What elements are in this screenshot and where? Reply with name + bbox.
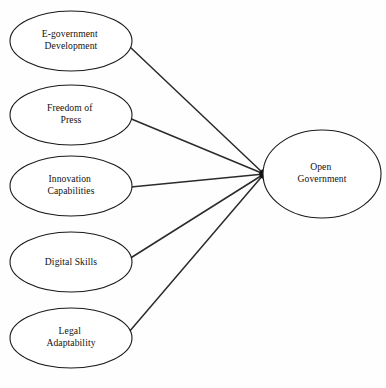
node-e-government-development[interactable]: E-government Development [10,11,132,71]
edge-group [129,47,264,332]
node-label-e-government-development: E-government Development [42,29,101,52]
node-label-digital-skills: Digital Skills [45,256,97,267]
diagram-root: E-government Development Freedom of Pres… [0,0,386,388]
label-line-1: Open [310,162,331,173]
label-line-2: Capabilities [47,185,94,196]
label-line-1: Innovation [48,174,91,185]
label-line-2: Government [298,173,347,184]
node-legal-adaptability[interactable]: Legal Adaptability [10,308,132,368]
edge-innovation-capabilities-to-open-government [131,174,264,187]
diagram-canvas: E-government Development Freedom of Pres… [0,0,386,388]
node-innovation-capabilities[interactable]: Innovation Capabilities [10,156,132,216]
label-line-1: E-government [42,29,98,40]
node-freedom-of-press[interactable]: Freedom of Press [10,85,132,145]
label-line-2: Adaptability [46,337,95,348]
edge-digital-skills-to-open-government [129,174,264,259]
label-line-2: Press [61,114,82,125]
edge-e-government-development-to-open-government [130,47,264,174]
edge-legal-adaptability-to-open-government [129,174,264,332]
node-label-innovation-capabilities: Innovation Capabilities [47,174,94,197]
node-open-government[interactable]: Open Government [263,130,381,218]
label-line-2: Development [45,40,98,51]
label-line-1: Digital Skills [45,256,97,267]
label-line-1: Freedom of [47,103,93,114]
label-line-1: Legal [59,326,82,337]
node-digital-skills[interactable]: Digital Skills [10,232,132,292]
edge-freedom-of-press-to-open-government [129,118,264,174]
